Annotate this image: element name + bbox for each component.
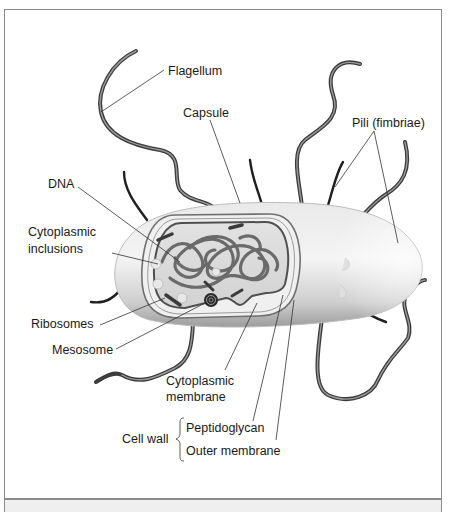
label-mesosome: Mesosome: [52, 343, 113, 357]
pilus-top-center: [250, 160, 262, 205]
label-flagellum: Flagellum: [168, 64, 222, 78]
label-cytoplasmic-inclusions-2: inclusions: [28, 242, 83, 256]
label-outer-membrane: Outer membrane: [186, 444, 280, 458]
label-cell-wall: Cell wall: [122, 432, 169, 446]
pilus-left: [124, 172, 147, 220]
label-peptidoglycan: Peptidoglycan: [186, 421, 265, 435]
mesosome: [204, 293, 218, 307]
bacterial-cell-illustration: [0, 0, 450, 512]
label-cytoplasmic-inclusions-1: Cytoplasmic: [28, 225, 96, 239]
label-cytoplasmic-membrane-1: Cytoplasmic: [166, 374, 234, 388]
label-capsule: Capsule: [183, 106, 229, 120]
label-pili: Pili (fimbriae): [352, 116, 425, 130]
label-dna: DNA: [48, 177, 74, 191]
label-ribosomes: Ribosomes: [31, 317, 94, 331]
flagellum-top-right: [297, 62, 360, 207]
label-cytoplasmic-membrane-2: membrane: [166, 390, 226, 404]
